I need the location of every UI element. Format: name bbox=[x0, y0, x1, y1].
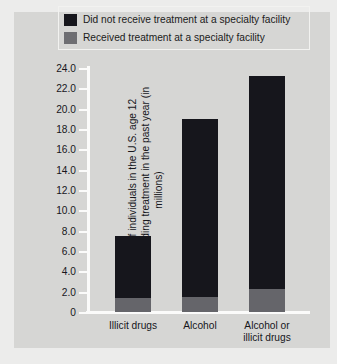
y-axis-tick-label: 4.0 bbox=[62, 266, 76, 277]
y-axis-tick-label: 10.0 bbox=[56, 205, 76, 216]
y-axis-tick bbox=[79, 231, 87, 233]
y-axis-tick bbox=[79, 170, 87, 172]
y-axis-tick bbox=[79, 88, 87, 90]
bar-segment-did-not-receive bbox=[115, 236, 151, 298]
x-axis-category-label-line: Alcohol or bbox=[221, 320, 313, 332]
legend-swatch-light-icon bbox=[64, 32, 77, 44]
legend-item-received: Received treatment at a specialty facili… bbox=[64, 29, 304, 47]
legend-label-did-not-receive: Did not receive treatment at a specialty… bbox=[83, 14, 290, 26]
y-axis-tick-label: 16.0 bbox=[56, 144, 76, 155]
chart-legend: Did not receive treatment at a specialty… bbox=[58, 6, 310, 50]
y-axis-tick bbox=[79, 190, 87, 192]
bar-alcohol-or-illicit-drugs: Alcohol orillicit drugs bbox=[249, 76, 285, 312]
legend-label-received: Received treatment at a specialty facili… bbox=[83, 32, 265, 44]
y-axis-tick-label: 6.0 bbox=[62, 246, 76, 257]
y-axis-tick bbox=[79, 210, 87, 212]
plot-area: Number of individuals in the U.S. age 12… bbox=[87, 68, 309, 312]
y-axis-tick bbox=[79, 129, 87, 131]
y-axis-tick bbox=[79, 312, 87, 314]
bar-segment-received bbox=[182, 297, 218, 312]
x-axis-category-label-line: illicit drugs bbox=[221, 332, 313, 344]
y-axis-tick bbox=[79, 109, 87, 111]
y-axis-tick-label: 12.0 bbox=[56, 185, 76, 196]
bar-illicit-drugs: Illicit drugs bbox=[115, 236, 151, 312]
y-axis-tick-label: 20.0 bbox=[56, 103, 76, 114]
legend-item-did-not-receive: Did not receive treatment at a specialty… bbox=[64, 11, 304, 29]
y-axis-tick bbox=[79, 68, 87, 70]
bar-alcohol: Alcohol bbox=[182, 119, 218, 312]
y-axis-tick bbox=[79, 292, 87, 294]
bar-segment-received bbox=[115, 298, 151, 312]
y-axis-tick-label: 8.0 bbox=[62, 225, 76, 236]
y-axis-tick-label: 22.0 bbox=[56, 83, 76, 94]
y-axis-tick bbox=[79, 251, 87, 253]
x-axis-category-label: Alcohol orillicit drugs bbox=[221, 320, 313, 343]
y-axis-tick bbox=[79, 271, 87, 273]
bar-segment-did-not-receive bbox=[182, 119, 218, 297]
legend-swatch-dark-icon bbox=[64, 14, 77, 26]
y-axis-tick-label: 2.0 bbox=[62, 286, 76, 297]
bar-segment-did-not-receive bbox=[249, 76, 285, 288]
bar-segment-received bbox=[249, 289, 285, 312]
chart-figure: Did not receive treatment at a specialty… bbox=[0, 0, 337, 364]
y-axis-tick-label: 24.0 bbox=[56, 63, 76, 74]
y-axis-tick-label: 14.0 bbox=[56, 164, 76, 175]
y-axis-tick bbox=[79, 149, 87, 151]
y-axis-tick-label: 18.0 bbox=[56, 124, 76, 135]
y-axis-tick-label: 0 bbox=[70, 307, 76, 318]
